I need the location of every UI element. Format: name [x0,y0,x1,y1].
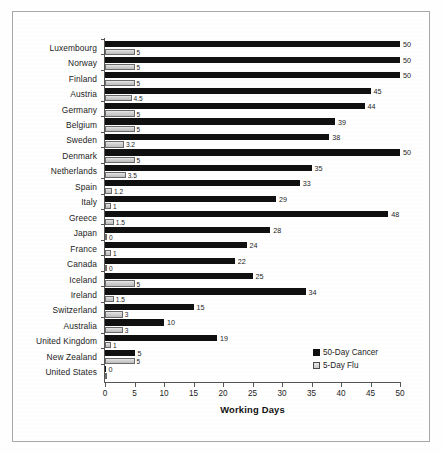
y-axis-label: Sweden [66,135,97,145]
bar-cancer: 33 [105,180,300,186]
x-axis-title: Working Days [104,404,401,415]
bar-value-label: 5 [137,280,141,287]
y-axis-label: Japan [74,228,97,238]
y-axis-tick [101,348,105,349]
legend-item-cancer: 50-Day Cancer [313,348,378,357]
y-axis-tick [101,147,105,148]
y-axis-tick [101,163,105,164]
bar-value-label: 15 [197,303,205,312]
x-axis-tick [194,382,195,387]
chart-row: Finland505 [105,71,400,86]
bar-value-label: 0 [109,364,113,373]
x-axis-tick [400,382,401,387]
bar-value-label: 33 [303,179,311,188]
chart-row: United Kingdom191 [105,334,400,349]
y-axis-label: Finland [69,74,97,84]
x-axis-line: 05101520253035404550 [104,382,401,383]
chart-row: Sweden383.2 [105,133,400,148]
bar-value-label: 3.5 [128,172,137,179]
bar-flu: 0 [105,265,107,271]
bar-value-label: 10 [167,318,175,327]
chart-row: Switzerland153 [105,303,400,318]
y-axis-tick [101,286,105,287]
legend-label-flu: 5-Day Flu [323,361,359,370]
chart-row: Italy291 [105,195,400,210]
bar-value-label: 29 [279,194,287,203]
x-axis-tick [371,382,372,387]
x-axis-tick-label: 35 [307,389,316,398]
y-axis-tick [101,302,105,303]
bar-cancer: 44 [105,103,365,109]
bar-cancer: 34 [105,288,306,294]
chart-row: Australia103 [105,318,400,333]
y-axis-tick [101,54,105,55]
bar-flu: 4.5 [105,95,132,101]
x-axis-tick-label: 30 [277,389,286,398]
bar-cancer: 50 [105,57,400,63]
bar-flu: 5 [105,280,135,286]
bar-cancer: 50 [105,72,400,78]
bar-flu: 1.5 [105,296,114,302]
x-axis-tick [135,382,136,387]
legend-swatch-flu-icon [313,362,320,369]
x-axis-tick-label: 45 [366,389,375,398]
chart-row: Austria454.5 [105,86,400,101]
bar-cancer: 48 [105,211,388,217]
chart-row: Canada220 [105,256,400,271]
bar-value-label: 0 [109,265,113,272]
bar-value-label: 1.2 [114,187,123,194]
chart-row: Greece481.5 [105,210,400,225]
bar-flu: 0 [105,234,107,240]
bar-flu: 5 [105,126,135,132]
chart-row: Luxembourg505 [105,40,400,55]
chart-row: Ireland341.5 [105,287,400,302]
bar-cancer: 29 [105,196,276,202]
y-axis-tick [101,101,105,102]
bar-value-label: 1 [113,249,117,256]
bar-value-label: 50 [403,55,411,64]
x-axis-tick [253,382,254,387]
bar-value-label: 34 [309,287,317,296]
y-axis-tick [101,209,105,210]
bar-flu: 3.5 [105,172,126,178]
bar-flu: 1.5 [105,219,114,225]
chart-row: Japan280 [105,225,400,240]
bar-value-label: 24 [250,241,258,250]
bar-value-label: 5 [137,125,141,132]
bar-cancer: 5 [105,350,135,356]
legend-item-flu: 5-Day Flu [313,361,378,370]
bar-flu: 3 [105,311,123,317]
y-axis-label: Norway [68,58,97,68]
bar-cancer: 38 [105,134,329,140]
bar-flu: 5 [105,358,135,364]
chart-legend: 50-Day Cancer 5-Day Flu [313,348,378,374]
chart-row: Netherlands353.5 [105,164,400,179]
y-axis-tick [101,178,105,179]
y-axis-label: Luxembourg [49,43,97,53]
bar-value-label: 0 [109,234,113,241]
bar-cancer: 24 [105,242,247,248]
x-axis-tick [105,382,106,387]
x-axis-tick-label: 40 [336,389,345,398]
bar-value-label: 25 [256,272,264,281]
x-axis-tick [282,382,283,387]
bar-value-label: 3.2 [126,141,135,148]
chart-frame: 05101520253035404550 Luxembourg505Norway… [12,11,430,442]
bar-cancer: 28 [105,227,270,233]
bar-value-label: 50 [403,71,411,80]
y-axis-label: Germany [62,105,97,115]
y-axis-label: Spain [75,182,97,192]
y-axis-tick [101,317,105,318]
chart-row: Belgium395 [105,117,400,132]
x-axis-tick [341,382,342,387]
bar-value-label: 45 [374,86,382,95]
x-axis-tick-label: 0 [103,389,108,398]
legend-label-cancer: 50-Day Cancer [323,348,378,357]
bar-cancer: 50 [105,41,400,47]
y-axis-tick [101,364,105,365]
chart-row: Norway505 [105,55,400,70]
bar-value-label: 1.5 [116,218,125,225]
y-axis-label: United Kingdom [36,336,97,346]
bar-value-label: 38 [332,133,340,142]
bar-cancer: 0 [105,366,106,372]
